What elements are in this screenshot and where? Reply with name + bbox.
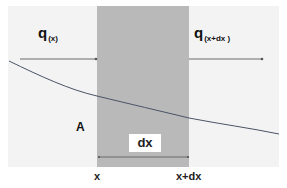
- flux-out-label: q(x+dx ): [194, 24, 230, 43]
- flux-out-arrow-head: [261, 58, 264, 61]
- x-right-label: x+dx: [176, 170, 201, 182]
- flux-in-label: q(x): [38, 24, 58, 43]
- control-volume-diagram: q(x) q(x+dx ) A dx x x+dx: [0, 0, 287, 188]
- flux-in-arrow-head: [95, 58, 98, 61]
- flux-in-symbol: q: [38, 24, 47, 41]
- flux-out-symbol: q: [194, 24, 203, 41]
- flux-in-subscript: (x): [48, 34, 58, 43]
- dx-width-label: dx: [129, 134, 161, 152]
- dx-dimension-right-tick: [187, 156, 189, 158]
- x-left-label: x: [94, 170, 100, 182]
- flux-out-subscript: (x+dx ): [204, 34, 230, 43]
- area-label: A: [76, 120, 85, 134]
- dx-dimension-left-tick: [98, 156, 100, 158]
